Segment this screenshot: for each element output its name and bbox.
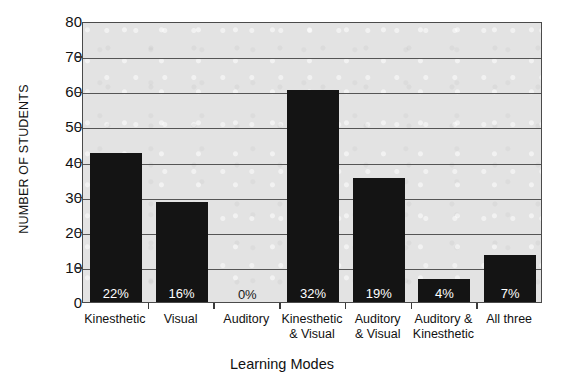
bar-data-label: 0% [221, 287, 273, 302]
y-tick-label: 60 [6, 84, 82, 99]
y-tick-label: 40 [6, 155, 82, 170]
x-tick-mark [148, 303, 149, 309]
bar: 22% [90, 153, 142, 303]
x-tick-mark [476, 303, 477, 309]
y-tick-label: 50 [6, 119, 82, 134]
bar-data-label: 19% [353, 286, 405, 301]
plot-area: 22%16%0%32%19%4%7% [82, 22, 542, 303]
bar: 4% [418, 279, 470, 303]
bar-data-label: 32% [287, 286, 339, 301]
bar-data-label: 4% [418, 286, 470, 301]
y-tick-label: 10 [6, 260, 82, 275]
y-tick-label: 30 [6, 190, 82, 205]
y-tick-label: 20 [6, 225, 82, 240]
x-tick-mark [213, 303, 214, 309]
bar: 16% [156, 202, 208, 303]
x-tick-mark [345, 303, 346, 309]
y-axis-ticks: 01020304050607080 [0, 0, 82, 386]
gridline [83, 58, 541, 59]
bar: 7% [484, 255, 536, 303]
x-category-label-line: All three [470, 312, 548, 327]
x-category-label: All three [470, 312, 548, 327]
x-category-label-line: Kinesthetic [405, 327, 483, 342]
bar: 19% [353, 178, 405, 303]
x-axis-title: Learning Modes [0, 356, 564, 372]
bar-data-label: 22% [90, 286, 142, 301]
bar-data-label: 16% [156, 286, 208, 301]
y-tick-label: 80 [6, 14, 82, 29]
x-tick-mark [279, 303, 280, 309]
x-tick-mark [411, 303, 412, 309]
bar-chart-figure: NUMBER OF STUDENTS 01020304050607080 22%… [0, 0, 564, 386]
y-tick-label: 0 [6, 295, 82, 310]
bar: 32% [287, 90, 339, 303]
bar-data-label: 7% [484, 286, 536, 301]
y-tick-label: 70 [6, 49, 82, 64]
